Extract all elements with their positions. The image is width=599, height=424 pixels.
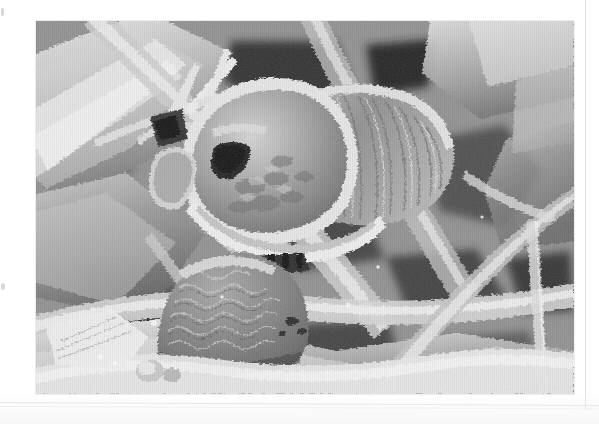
sem-micrograph-figure	[36, 21, 574, 394]
scan-speck	[1, 8, 4, 16]
page-border-rule-vertical	[585, 0, 586, 410]
scan-speck	[1, 283, 5, 290]
page-border-rule-horizontal-secondary	[0, 406, 599, 409]
page-border-rule-horizontal	[0, 402, 599, 406]
sem-micrograph-canvas	[36, 21, 574, 394]
scanned-page	[0, 0, 599, 424]
